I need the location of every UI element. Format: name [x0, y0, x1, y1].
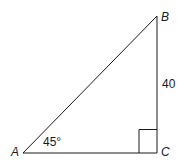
vertex-label-a: A [10, 145, 19, 159]
vertex-label-c: C [161, 145, 170, 159]
angle-a-label: 45° [43, 135, 61, 149]
triangle-figure: B 40 C A 45° [0, 0, 186, 165]
triangle-abc [23, 16, 157, 153]
triangle-diagram: B 40 C A 45° [0, 0, 186, 165]
right-angle-marker [139, 130, 157, 154]
side-bc-length-label: 40 [162, 77, 176, 91]
vertex-label-b: B [161, 10, 169, 24]
